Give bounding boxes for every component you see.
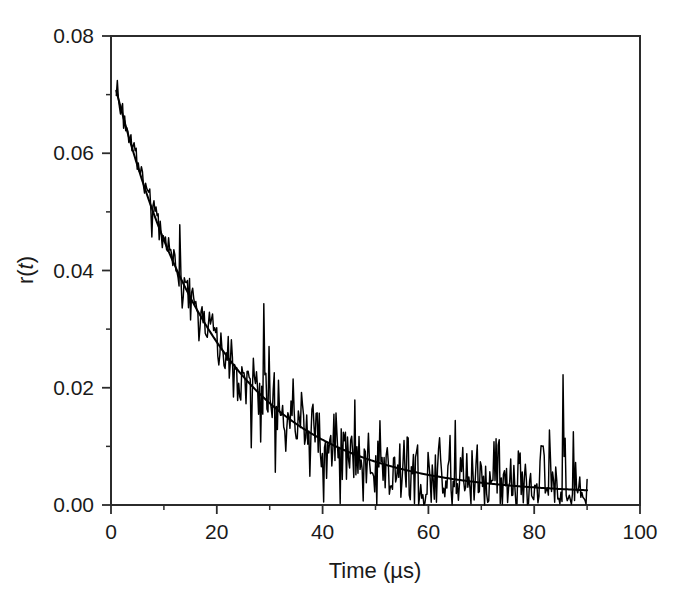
x-tick-label: 20 bbox=[205, 520, 228, 543]
x-axis-label: Time (µs) bbox=[329, 558, 422, 583]
x-tick-label: 40 bbox=[311, 520, 334, 543]
y-tick-label: 0.04 bbox=[53, 259, 94, 282]
x-tick-label: 80 bbox=[523, 520, 546, 543]
x-tick-label: 0 bbox=[105, 520, 117, 543]
y-axis-label-group: r(t) bbox=[13, 256, 38, 284]
y-tick-label: 0.00 bbox=[53, 493, 94, 516]
chart-canvas: 020406080100 0.000.020.040.060.08 Time (… bbox=[0, 0, 678, 594]
anisotropy-decay-figure: 020406080100 0.000.020.040.060.08 Time (… bbox=[0, 0, 678, 594]
y-tick-label: 0.02 bbox=[53, 376, 94, 399]
y-tick-label: 0.06 bbox=[53, 141, 94, 164]
x-tick-label: 60 bbox=[417, 520, 440, 543]
y-axis-label: r(t) bbox=[13, 256, 38, 284]
y-tick-label: 0.08 bbox=[53, 24, 94, 47]
x-tick-label: 100 bbox=[622, 520, 657, 543]
